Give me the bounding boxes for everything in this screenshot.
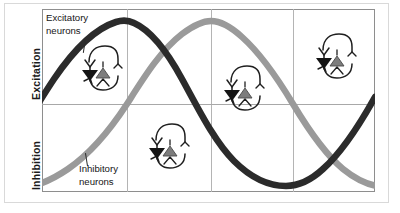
neuron-motif-3 <box>218 60 270 120</box>
callout-excitatory-line2: neurons <box>46 25 88 38</box>
inhibitory-cell-body <box>316 58 332 69</box>
inhibitory-cell-body <box>224 90 240 101</box>
callout-excitatory-neurons: Excitatory neurons <box>46 12 88 37</box>
callout-inhibitory-line2: neurons <box>79 176 118 189</box>
excitatory-cell-body <box>330 56 344 66</box>
callout-inhibitory-neurons: Inhibitory neurons <box>79 163 118 188</box>
y-axis-label-inhibition: Inhibition <box>30 141 42 190</box>
y-axis-label-excitation: Excitation <box>30 48 42 100</box>
neuron-motif-2 <box>143 118 195 178</box>
callout-excitatory-line1: Excitatory <box>46 12 88 25</box>
excitatory-cell-body <box>238 88 252 98</box>
neuron-motif-4 <box>310 28 362 88</box>
inhibitory-cell-body <box>82 70 98 81</box>
microcircuit-icon <box>218 60 270 116</box>
inhibitory-cell-body <box>149 148 165 159</box>
excitatory-cell-body <box>96 68 110 78</box>
excitatory-cell-body <box>163 146 177 156</box>
figure-root: Excitation Inhibition <box>0 0 400 213</box>
microcircuit-icon <box>143 118 195 174</box>
callout-inhibitory-line1: Inhibitory <box>79 163 118 176</box>
microcircuit-icon <box>310 28 362 84</box>
